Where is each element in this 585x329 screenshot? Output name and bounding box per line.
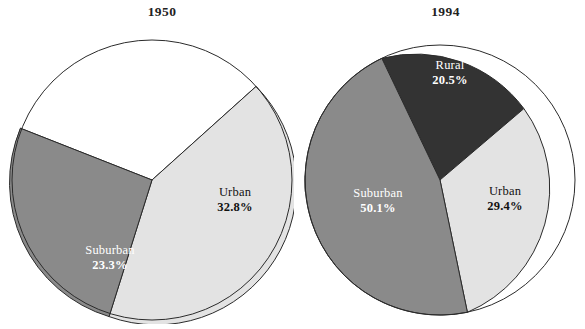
panel-1994: 1994 (300, 0, 585, 329)
pie-stage-1950 (4, 24, 294, 324)
panel-title-1950: 1950 (0, 4, 300, 20)
pie-svg-1994 (300, 24, 585, 324)
panel-1950: 1950 (0, 0, 300, 329)
pie-top-1950 (10, 86, 294, 324)
pie-svg-1950 (4, 24, 294, 324)
pie-chart-figure: 1950 (0, 0, 585, 329)
pie-stage-1994 (300, 24, 585, 324)
panel-title-1994: 1994 (300, 4, 585, 20)
pie-top-1994 (305, 54, 550, 315)
